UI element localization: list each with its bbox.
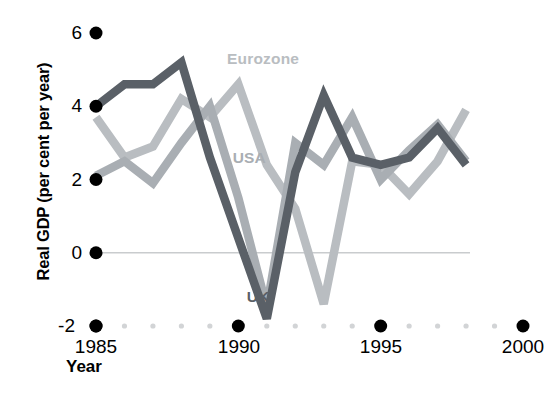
- x-minor-tick-dot: [492, 323, 497, 328]
- x-tick-marks: [90, 320, 530, 333]
- y-tick-label-2: 2: [48, 169, 82, 191]
- y-major-tick-dot: [90, 27, 103, 40]
- x-minor-tick-dot: [179, 323, 184, 328]
- x-minor-tick-dot: [122, 323, 127, 328]
- chart-container: Real GDP (per cent per year) Year 6 4 2 …: [0, 0, 556, 401]
- x-minor-tick-dot: [407, 323, 412, 328]
- x-minor-tick-dot: [350, 323, 355, 328]
- series-label-eurozone: Eurozone: [227, 50, 299, 68]
- y-major-tick-dot: [90, 100, 103, 113]
- x-minor-tick-dot: [264, 323, 269, 328]
- y-tick-label-minus-2: -2: [41, 315, 75, 337]
- x-minor-tick-dot: [207, 323, 212, 328]
- series-group: [96, 62, 466, 318]
- x-tick-label-1990: 1990: [204, 336, 274, 358]
- x-minor-tick-dot: [293, 323, 298, 328]
- series-label-uk: UK: [247, 288, 270, 306]
- x-tick-label-1985: 1985: [61, 336, 131, 358]
- series-label-usa: USA: [233, 149, 266, 167]
- x-minor-tick-dot: [321, 323, 326, 328]
- y-major-tick-dot: [90, 246, 103, 259]
- y-tick-label-6: 6: [48, 22, 82, 44]
- x-axis-title: Year: [66, 357, 102, 377]
- x-minor-tick-dot: [463, 323, 468, 328]
- x-minor-tick-dot: [435, 323, 440, 328]
- x-major-tick-dot: [517, 320, 530, 333]
- series-line-usa: [96, 106, 466, 307]
- x-major-tick-dot: [232, 320, 245, 333]
- y-tick-label-0: 0: [48, 242, 82, 264]
- x-tick-label-2000: 2000: [488, 336, 556, 358]
- series-line-eurozone: [96, 84, 466, 304]
- y-tick-marks: [90, 27, 103, 333]
- y-major-tick-dot: [90, 320, 103, 333]
- x-tick-label-1995: 1995: [346, 336, 416, 358]
- x-major-tick-dot: [374, 320, 387, 333]
- y-tick-label-4: 4: [48, 95, 82, 117]
- x-minor-tick-dot: [150, 323, 155, 328]
- y-major-tick-dot: [90, 173, 103, 186]
